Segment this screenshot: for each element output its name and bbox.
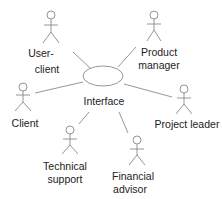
actor-label: manager xyxy=(138,59,180,71)
stick-figure-icon xyxy=(43,11,59,43)
actor-label: client xyxy=(35,63,60,75)
actor-label: support xyxy=(47,173,82,185)
association-product-manager xyxy=(118,47,136,67)
stick-figure-icon xyxy=(62,126,78,154)
actor-project-leader[interactable]: Project leader xyxy=(155,85,220,130)
actor-label: Client xyxy=(12,117,39,129)
actor-product-manager[interactable]: Product manager xyxy=(138,11,180,71)
actor-label: Project leader xyxy=(155,118,220,130)
actor-label: Financial xyxy=(112,170,154,182)
association-technical-support xyxy=(79,112,89,124)
actor-label: Product xyxy=(141,46,177,58)
use-case-ellipse[interactable] xyxy=(83,66,123,86)
stick-figure-icon xyxy=(129,136,145,165)
use-case-diagram: Interface User- client Product manager xyxy=(0,0,222,199)
actor-financial-advisor[interactable]: Financial advisor xyxy=(112,136,154,195)
association-user-client xyxy=(73,52,90,68)
stick-figure-icon xyxy=(147,11,161,41)
association-project-leader xyxy=(124,84,172,97)
actor-user-client[interactable]: User- client xyxy=(28,11,59,75)
stick-figure-icon xyxy=(176,85,192,114)
use-case-label: Interface xyxy=(84,95,125,107)
association-client xyxy=(35,82,83,93)
actor-label: advisor xyxy=(113,183,147,195)
association-financial-advisor xyxy=(119,112,128,133)
stick-figure-icon xyxy=(15,83,31,111)
actor-technical-support[interactable]: Technical support xyxy=(43,126,87,185)
actor-label: User- xyxy=(28,47,54,59)
actor-client[interactable]: Client xyxy=(12,83,39,129)
actor-label: Technical xyxy=(43,160,87,172)
